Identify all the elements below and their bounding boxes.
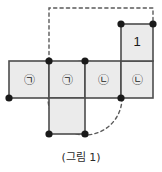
node-top-right-left: [117, 20, 124, 27]
node-top-left-inner: [45, 57, 52, 64]
figure-container: ㉠ ㉠ ㉡ ㉡ 1 (그림 1): [0, 0, 162, 172]
figure-caption: (그림 1): [61, 151, 100, 164]
node-top-mid: [81, 57, 88, 64]
cell-b1-label: ㉡: [98, 74, 109, 87]
node-left-bottom: [5, 94, 12, 101]
cell-a2-label: ㉠: [62, 74, 73, 87]
node-right-bottom: [117, 94, 124, 101]
cell-b2-label: ㉡: [132, 74, 143, 87]
cell-top-right-label: 1: [133, 34, 140, 49]
cell-a1-label: ㉠: [24, 74, 35, 87]
node-bottom-right: [81, 130, 88, 137]
cell-bottom: [49, 98, 85, 134]
node-bottom-left: [45, 130, 52, 137]
node-top-right-right: [149, 20, 156, 27]
figure-svg: ㉠ ㉠ ㉡ ㉡ 1 (그림 1): [0, 0, 162, 172]
